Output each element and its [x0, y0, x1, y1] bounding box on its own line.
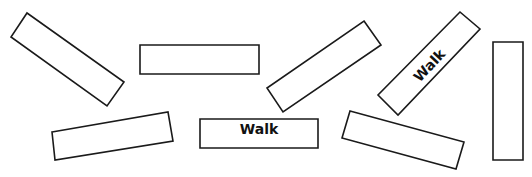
blank-card-8[interactable] [342, 111, 464, 169]
card-outline [267, 21, 381, 112]
card-outline [11, 13, 124, 106]
blank-card-1[interactable] [11, 13, 124, 106]
card-label-walk: Walk [240, 121, 279, 137]
walk-card-horizontal[interactable]: Walk [200, 119, 318, 148]
card-outline [493, 42, 523, 160]
walk-card-tilted[interactable]: Walk [378, 12, 480, 115]
worksheet-canvas: Walk Walk [0, 0, 532, 177]
blank-card-6[interactable] [52, 112, 173, 160]
card-outline [140, 45, 259, 74]
blank-card-vertical[interactable] [493, 42, 523, 160]
blank-card-3[interactable] [267, 21, 381, 112]
blank-card-2[interactable] [140, 45, 259, 74]
card-outline [342, 111, 464, 169]
card-outline [52, 112, 173, 160]
